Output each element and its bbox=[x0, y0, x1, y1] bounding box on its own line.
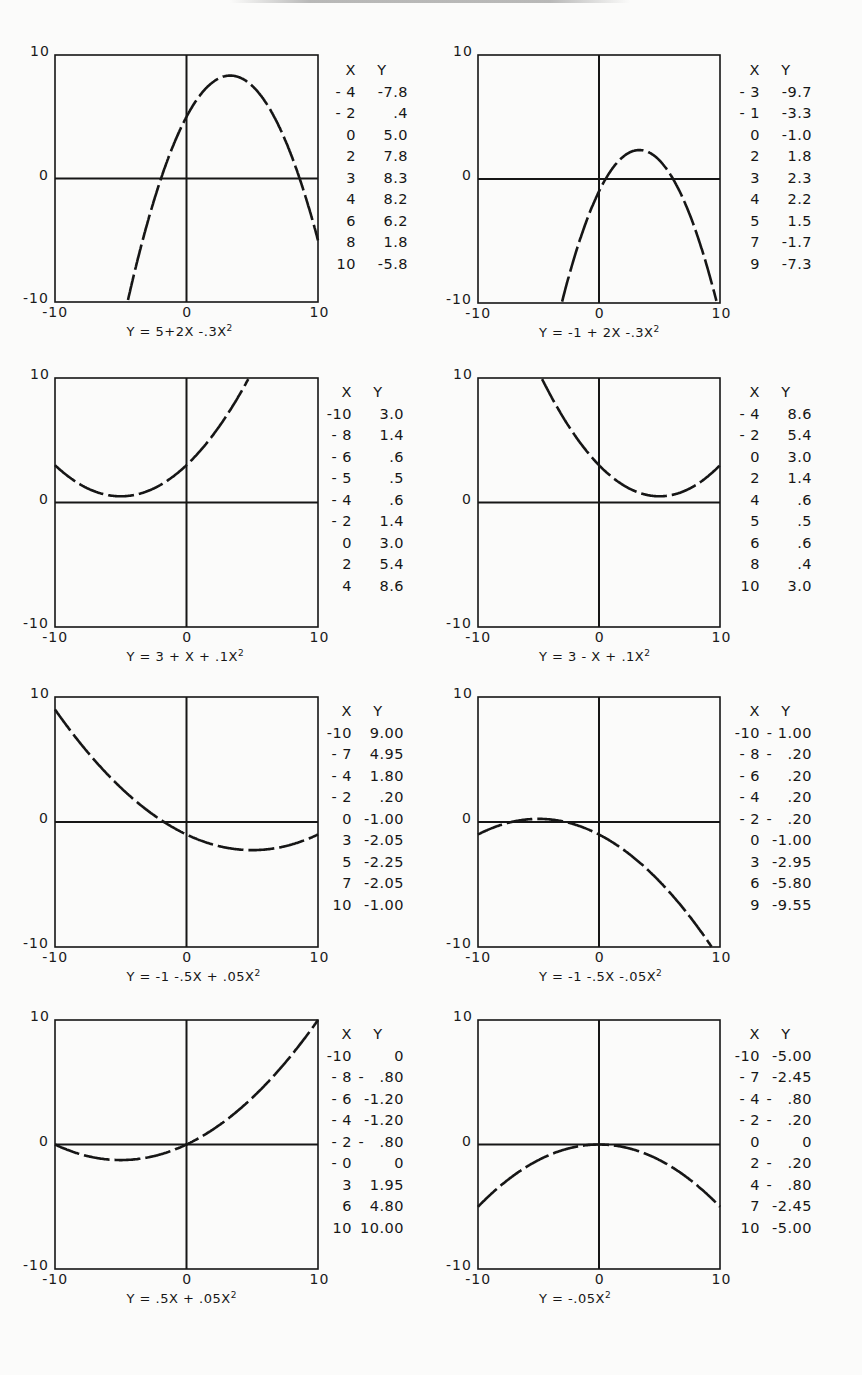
y-value: - .20 bbox=[760, 1110, 812, 1132]
table-header-row: XY bbox=[726, 1024, 812, 1046]
y-column-header: Y bbox=[760, 1024, 812, 1046]
y-tick-label: 0 bbox=[462, 1133, 472, 1149]
y-value: - .80 bbox=[760, 1089, 812, 1111]
y-value: -5.00 bbox=[760, 1046, 812, 1068]
table-row: 00 bbox=[726, 1132, 812, 1154]
equation-text: Y = -.05X bbox=[539, 1291, 605, 1306]
table-row: - 4- .80 bbox=[726, 1089, 812, 1111]
x-value: 7 bbox=[726, 1196, 760, 1218]
x-value: -10 bbox=[726, 1046, 760, 1068]
y-value: -2.45 bbox=[760, 1196, 812, 1218]
table-row: 7-2.45 bbox=[726, 1196, 812, 1218]
table-row: - 2- .20 bbox=[726, 1110, 812, 1132]
table-row: - 7-2.45 bbox=[726, 1067, 812, 1089]
y-value: 0 bbox=[760, 1132, 812, 1154]
y-tick-label: 10 bbox=[453, 1008, 473, 1024]
equation-exponent: 2 bbox=[605, 1290, 611, 1300]
table-row: -10-5.00 bbox=[726, 1046, 812, 1068]
y-value: -2.45 bbox=[760, 1067, 812, 1089]
table-row: 4- .80 bbox=[726, 1175, 812, 1197]
x-tick-label: 0 bbox=[595, 1271, 605, 1287]
x-tick-label: 10 bbox=[712, 1271, 732, 1287]
x-value: - 4 bbox=[726, 1089, 760, 1111]
y-value: -5.00 bbox=[760, 1218, 812, 1240]
x-column-header: X bbox=[726, 1024, 760, 1046]
equation-caption: Y = -.05X2 bbox=[539, 1290, 611, 1306]
x-value: 4 bbox=[726, 1175, 760, 1197]
y-value: - .80 bbox=[760, 1175, 812, 1197]
x-value: - 7 bbox=[726, 1067, 760, 1089]
x-value: 0 bbox=[726, 1132, 760, 1154]
x-value: 2 bbox=[726, 1153, 760, 1175]
y-value: - .20 bbox=[760, 1153, 812, 1175]
x-tick-label: -10 bbox=[465, 1271, 491, 1287]
x-value: - 2 bbox=[726, 1110, 760, 1132]
table-row: 2- .20 bbox=[726, 1153, 812, 1175]
xy-value-table: XY-10-5.00- 7-2.45- 4- .80- 2- .20002- .… bbox=[726, 1024, 812, 1239]
x-value: 10 bbox=[726, 1218, 760, 1240]
table-row: 10-5.00 bbox=[726, 1218, 812, 1240]
